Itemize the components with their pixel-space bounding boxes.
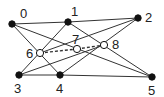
node-6 <box>36 49 43 56</box>
node-label-4: 4 <box>56 82 63 95</box>
node-2 <box>135 15 141 21</box>
edge-0-1 <box>12 22 68 24</box>
node-8 <box>100 41 107 48</box>
node-label-8: 8 <box>112 38 119 51</box>
node-label-7: 7 <box>72 33 79 46</box>
node-4 <box>57 72 63 78</box>
node-0 <box>9 21 15 27</box>
edge-4-5 <box>60 75 152 77</box>
node-label-5: 5 <box>148 84 155 97</box>
node-5 <box>149 74 155 80</box>
graph-diagram: 012345678 <box>0 0 164 97</box>
edge-0-4 <box>12 24 60 75</box>
node-label-3: 3 <box>14 82 21 95</box>
node-label-6: 6 <box>26 47 33 60</box>
node-1 <box>65 19 71 25</box>
node-label-1: 1 <box>71 5 78 18</box>
node-label-2: 2 <box>145 11 152 24</box>
node-3 <box>16 72 22 78</box>
node-label-0: 0 <box>20 7 27 20</box>
